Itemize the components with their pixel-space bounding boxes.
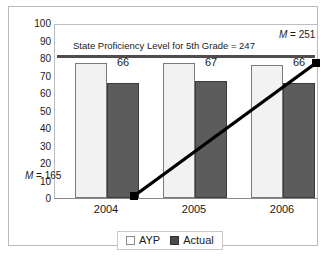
legend-swatch-ayp-icon [126,236,135,245]
chart-container: 100 90 80 70 60 50 40 30 20 10 0 66 67 6 [0,0,335,259]
bar-value-label-2004: 66 [117,56,129,68]
trend-start-label: M = 165 [25,170,61,181]
trend-start-label-value: = 165 [33,170,61,181]
legend-item-actual: Actual [170,234,214,246]
x-tick-2005: 2005 [182,203,206,215]
bar-value-label-2006: 66 [293,56,305,68]
y-tick-40: 40 [25,124,51,134]
legend-label-ayp: AYP [139,234,160,246]
y-tick-90: 90 [25,37,51,47]
chart-frame: 100 90 80 70 60 50 40 30 20 10 0 66 67 6 [8,6,318,246]
x-axis-ticks: 2004 2005 2006 [54,203,318,219]
x-tick-2004: 2004 [94,203,118,215]
x-tick-2006: 2006 [270,203,294,215]
bar-actual-2005 [195,81,227,198]
y-tick-20: 20 [25,159,51,169]
chart-legend: AYP Actual [117,231,223,250]
legend-label-actual: Actual [183,234,214,246]
bar-actual-2006 [283,83,315,199]
bar-actual-2004 [107,83,139,199]
y-tick-70: 70 [25,72,51,82]
legend-item-ayp: AYP [126,234,160,246]
plot-area: 66 67 66 State Proficiency Level for 5th… [54,24,318,199]
proficiency-reference-line [57,55,315,58]
y-tick-80: 80 [25,54,51,64]
legend-swatch-actual-icon [170,236,179,245]
y-tick-0: 0 [25,194,51,204]
proficiency-reference-label: State Proficiency Level for 5th Grade = … [73,40,255,51]
trend-end-label: M = 251 [279,29,315,40]
y-tick-50: 50 [25,107,51,117]
bar-ayp-2006 [251,65,283,198]
y-tick-30: 30 [25,142,51,152]
bar-value-label-2005: 67 [205,56,217,68]
trend-end-label-value: = 251 [287,29,315,40]
y-tick-100: 100 [25,19,51,29]
y-tick-60: 60 [25,89,51,99]
bar-ayp-2004 [75,63,107,198]
bar-ayp-2005 [163,63,195,198]
